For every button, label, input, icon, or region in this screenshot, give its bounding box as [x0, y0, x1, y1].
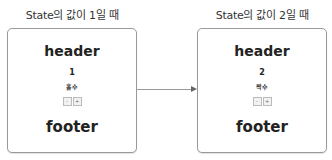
left-button-group: - + — [8, 97, 136, 106]
right-caption: State의 값이 2일 때 — [197, 6, 327, 22]
right-minus-button[interactable]: - — [253, 97, 262, 106]
right-plus-button[interactable]: + — [263, 97, 272, 106]
right-footer: footer — [198, 118, 326, 136]
left-component-box: header 1 홀수 - + footer — [7, 28, 137, 153]
right-component-box: header 2 짝수 - + footer — [197, 28, 327, 153]
left-header: header — [8, 43, 136, 59]
left-footer: footer — [8, 118, 136, 136]
left-parity-label: 홀수 — [8, 82, 136, 91]
left-caption: State의 값이 1일 때 — [7, 6, 137, 22]
right-header: header — [198, 43, 326, 59]
right-state-value: 2 — [198, 68, 326, 77]
left-state-value: 1 — [8, 68, 136, 77]
right-button-group: - + — [198, 97, 326, 106]
left-minus-button[interactable]: - — [63, 97, 72, 106]
transition-arrow-line — [137, 89, 193, 90]
left-plus-button[interactable]: + — [73, 97, 82, 106]
right-parity-label: 짝수 — [198, 82, 326, 91]
